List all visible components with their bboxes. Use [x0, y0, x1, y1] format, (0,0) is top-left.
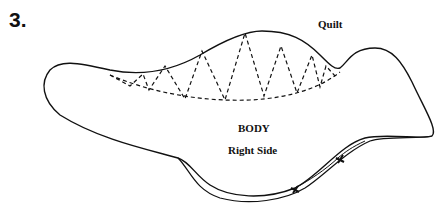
- dashed-stitch-curve: [110, 72, 340, 100]
- quilt-body-diagram: [0, 0, 442, 220]
- diagram-canvas: 3. Quilt BODY Right Side: [0, 0, 442, 220]
- right-side-label: Right Side: [228, 144, 277, 156]
- quilt-backing-edge: [178, 136, 432, 202]
- step-number: 3.: [9, 8, 27, 32]
- body-label: BODY: [238, 122, 270, 134]
- pin-icon: [291, 186, 299, 193]
- quilt-label: Quilt: [318, 18, 342, 30]
